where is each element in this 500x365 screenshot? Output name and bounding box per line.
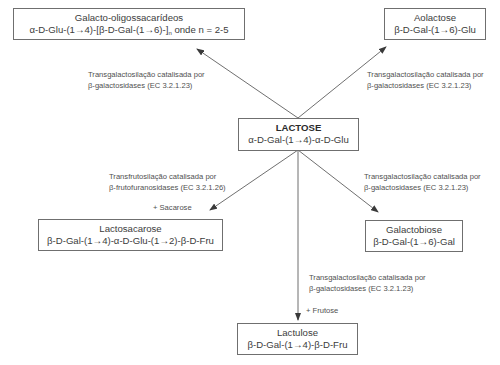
reaction-label-galacto-oligossacarideos: Transgalactosilação catalisada por β-gal… (88, 70, 205, 91)
reaction-label-lactosacarose: Transfrutosilação catalisada por β-fruto… (109, 172, 226, 193)
arrow-to-galacto-oligossacarideos (197, 49, 298, 118)
lactulose-formula: β-D-Gal-(1→4)-β-D-Fru (238, 339, 357, 351)
aolactose-formula: β-D-Gal-(1→6)-Glu (385, 24, 485, 36)
galacto-oligossacarideos-box: Galacto-oligossacarídeos α-D-Glu-(1→4)-[… (13, 8, 245, 40)
reaction-line-2: β-galactosidases (EC 3.2.1.23) (364, 183, 481, 194)
reaction-line-2: β-frutofuranosidases (EC 3.2.1.26) (109, 183, 226, 194)
reaction-line-2: β-galactosidases (EC 3.2.1.23) (367, 81, 484, 92)
cosubstrate-frutose: + Frutose (306, 306, 338, 317)
galacto-oligossacarideos-formula: α-D-Glu-(1→4)-[β-D-Gal-(1→6)-]n onde n =… (14, 24, 244, 36)
reaction-label-lactulose: Transgalactosilação catalisada por β-gal… (309, 273, 426, 294)
reaction-label-galactobiose: Transgalactosilação catalisada por β-gal… (364, 172, 481, 193)
reaction-line-1: Transfrutosilação catalisada por (109, 172, 226, 183)
galactobiose-box: Galactobiose β-D-Gal-(1→6)-Gal (365, 220, 463, 252)
formula-prefix: α-D-Glu-(1→4)-[β-D-Gal-(1→6)-] (29, 24, 168, 35)
reaction-line-1: Transgalactosilação catalisada por (309, 273, 426, 284)
cosubstrate-sacarose: + Sacarose (153, 203, 192, 214)
galactobiose-name: Galactobiose (366, 224, 462, 236)
lactulose-name: Lactulose (238, 327, 357, 339)
reaction-line-1: Transgalactosilação catalisada por (367, 70, 484, 81)
lactosacarose-box: Lactosacarose β-D-Gal-(1→4)-α-D-Glu-(1→2… (38, 219, 223, 251)
reaction-line-1: Transgalactosilação catalisada por (88, 70, 205, 81)
lactose-formula: α-D-Gal-(1→4)-α-D-Glu (239, 134, 358, 146)
lactulose-box: Lactulose β-D-Gal-(1→4)-β-D-Fru (237, 323, 358, 355)
reaction-line-1: Transgalactosilação catalisada por (364, 172, 481, 183)
formula-suffix: onde n = 2-5 (172, 24, 229, 35)
aolactose-name: Aolactose (385, 12, 485, 24)
galacto-oligossacarideos-name: Galacto-oligossacarídeos (14, 12, 244, 24)
lactose-name: LACTOSE (239, 122, 358, 134)
aolactose-box: Aolactose β-D-Gal-(1→6)-Glu (384, 8, 486, 40)
lactose-box: LACTOSE α-D-Gal-(1→4)-α-D-Glu (238, 118, 359, 151)
lactosacarose-name: Lactosacarose (39, 223, 222, 235)
lactosacarose-formula: β-D-Gal-(1→4)-α-D-Glu-(1→2)-β-D-Fru (39, 235, 222, 247)
galactobiose-formula: β-D-Gal-(1→6)-Gal (366, 236, 462, 248)
reaction-line-2: β-galactosidases (EC 3.2.1.23) (88, 81, 205, 92)
reaction-label-aolactose: Transgalactosilação catalisada por β-gal… (367, 70, 484, 91)
reaction-line-2: β-galactosidases (EC 3.2.1.23) (309, 284, 426, 295)
